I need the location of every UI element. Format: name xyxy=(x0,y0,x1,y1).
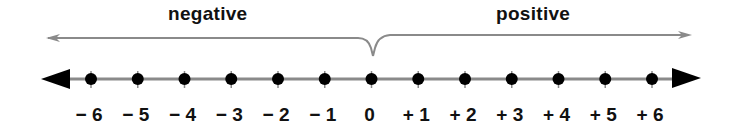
positive-region-arrow xyxy=(373,35,688,56)
tick-dot xyxy=(132,73,144,85)
tick-label: − 5 xyxy=(122,104,149,126)
tick-label: − 3 xyxy=(216,104,243,126)
tick-label: + 4 xyxy=(543,104,570,126)
right-arrowhead-icon xyxy=(672,68,701,88)
left-arrowhead-icon xyxy=(41,69,70,89)
tick-dot xyxy=(319,73,331,85)
tick-dot xyxy=(272,73,284,85)
tick-dot xyxy=(506,73,518,85)
positive-label: positive xyxy=(496,3,570,25)
tick-dot xyxy=(366,73,378,85)
region-arrows xyxy=(46,31,692,56)
tick-dot xyxy=(412,73,424,85)
tick-label: + 5 xyxy=(590,104,617,126)
tick-dot xyxy=(553,73,565,85)
tick-label: + 1 xyxy=(403,104,430,126)
number-line-diagram: negative positive − 6− 5− 4− 3− 2− 10+ 1… xyxy=(0,0,734,139)
tick-dot xyxy=(85,73,97,85)
tick-dot xyxy=(225,73,237,85)
tick-label: − 1 xyxy=(309,104,336,126)
tick-dot xyxy=(179,73,191,85)
tick-label: − 2 xyxy=(263,104,290,126)
tick-dot xyxy=(646,73,658,85)
tick-dot xyxy=(459,73,471,85)
tick-label: + 3 xyxy=(496,104,523,126)
tick-label: + 2 xyxy=(450,104,477,126)
tick-label: + 6 xyxy=(637,104,664,126)
negative-label: negative xyxy=(168,3,248,25)
tick-label: 0 xyxy=(364,104,375,126)
tick-dot xyxy=(599,73,611,85)
negative-region-arrow xyxy=(48,38,373,56)
tick-label: − 6 xyxy=(76,104,103,126)
tick-label: − 4 xyxy=(169,104,196,126)
